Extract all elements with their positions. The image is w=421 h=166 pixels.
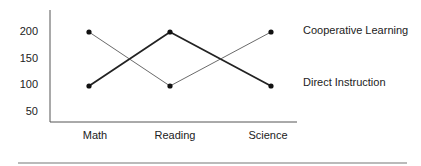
data-point-marker [268, 83, 273, 88]
y-tick-50: 50 [26, 105, 38, 117]
y-tick-200: 200 [20, 25, 38, 37]
data-point-marker [86, 83, 91, 88]
category-math: Math [83, 129, 107, 141]
series-cooperative-learning [86, 29, 273, 88]
y-tick-labels: 200 150 100 50 [20, 25, 38, 117]
series-line [89, 32, 271, 86]
y-tick-100: 100 [20, 78, 38, 90]
data-point-marker [167, 83, 172, 88]
data-point-marker [86, 29, 91, 34]
series-line [89, 32, 271, 86]
category-reading: Reading [155, 129, 196, 141]
y-tick-150: 150 [20, 52, 38, 64]
line-chart: 200 150 100 50 Math Reading Science Coop… [0, 0, 421, 166]
legend-direct-instruction: Direct Instruction [303, 76, 386, 88]
category-science: Science [248, 129, 287, 141]
data-point-marker [268, 29, 273, 34]
x-category-labels: Math Reading Science [83, 129, 288, 141]
legend-cooperative-learning: Cooperative Learning [303, 24, 408, 36]
series-layer [86, 29, 273, 88]
data-point-marker [167, 29, 172, 34]
